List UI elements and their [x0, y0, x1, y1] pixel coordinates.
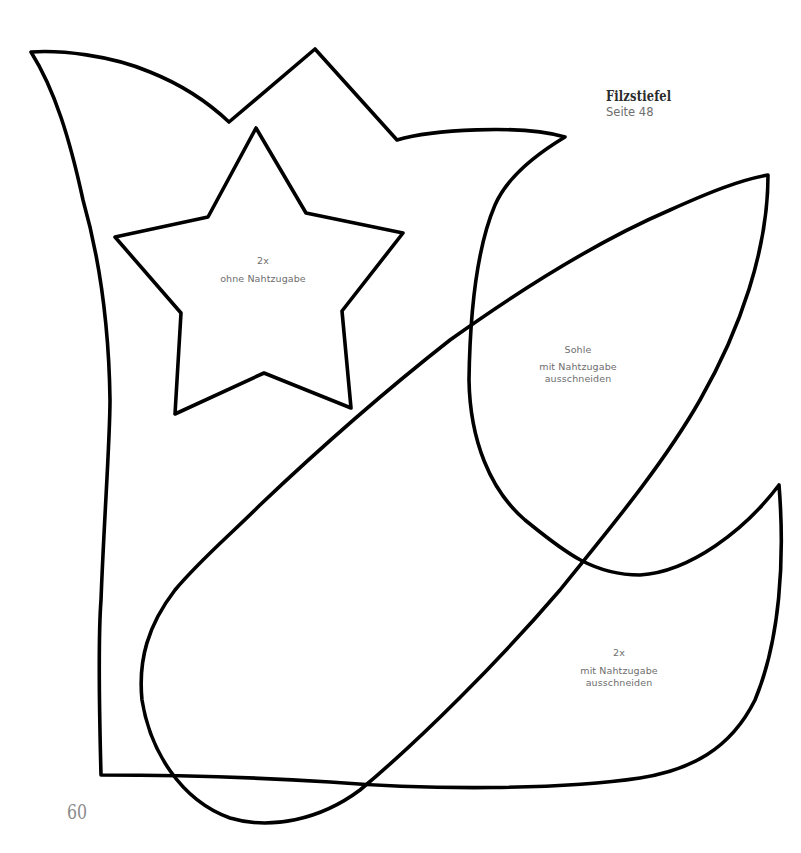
sole-label: Sohle mit Nahtzugabe ausschneiden	[539, 344, 616, 385]
page-number: 60	[67, 800, 87, 824]
boot-outline	[31, 49, 781, 788]
sole-instruction-line1: mit Nahtzugabe	[539, 361, 616, 373]
star-instruction: ohne Nahtzugabe	[220, 273, 306, 285]
boot-quantity: 2x	[580, 647, 657, 659]
pattern-title: Filzstiefel	[606, 88, 671, 104]
sole-instruction-line2: ausschneiden	[539, 373, 616, 385]
boot-label: 2x mit Nahtzugabe ausschneiden	[580, 647, 657, 689]
pattern-outlines	[0, 0, 801, 853]
star-quantity: 2x	[220, 255, 306, 267]
boot-instruction-line2: ausschneiden	[580, 677, 657, 689]
star-label: 2x ohne Nahtzugabe	[220, 255, 306, 285]
pattern-page-reference: Seite 48	[606, 105, 686, 119]
sole-name: Sohle	[539, 344, 616, 356]
boot-instruction-line1: mit Nahtzugabe	[580, 665, 657, 677]
pattern-page: Filzstiefel Seite 48 2x ohne Nahtzugabe …	[0, 0, 801, 853]
title-block: Filzstiefel Seite 48	[606, 88, 686, 119]
